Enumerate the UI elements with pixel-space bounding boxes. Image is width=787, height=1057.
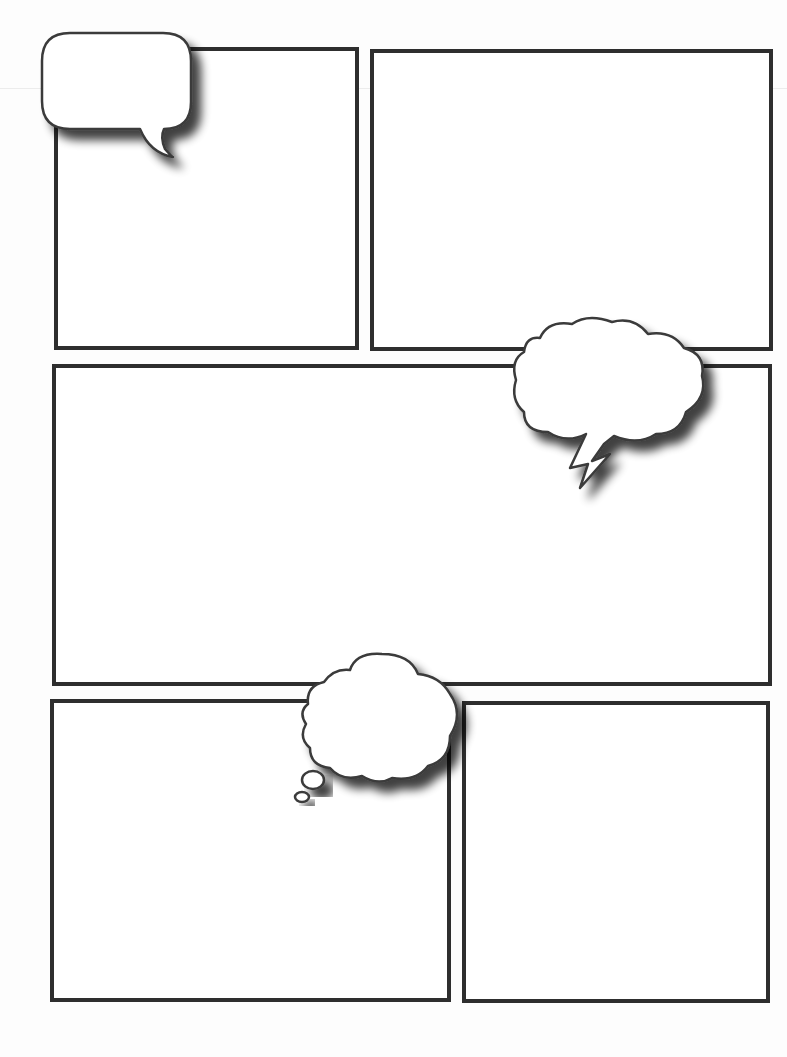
cloud-lightning-bubble-icon bbox=[510, 316, 710, 496]
comic-panel-2 bbox=[370, 49, 773, 351]
shout-bubble[interactable] bbox=[510, 316, 710, 496]
thought-bubble-icon bbox=[290, 650, 470, 810]
comic-panel-5 bbox=[462, 701, 770, 1003]
thought-bubble[interactable] bbox=[290, 650, 470, 810]
speech-bubble[interactable] bbox=[40, 32, 200, 162]
speech-bubble-icon bbox=[40, 32, 200, 162]
